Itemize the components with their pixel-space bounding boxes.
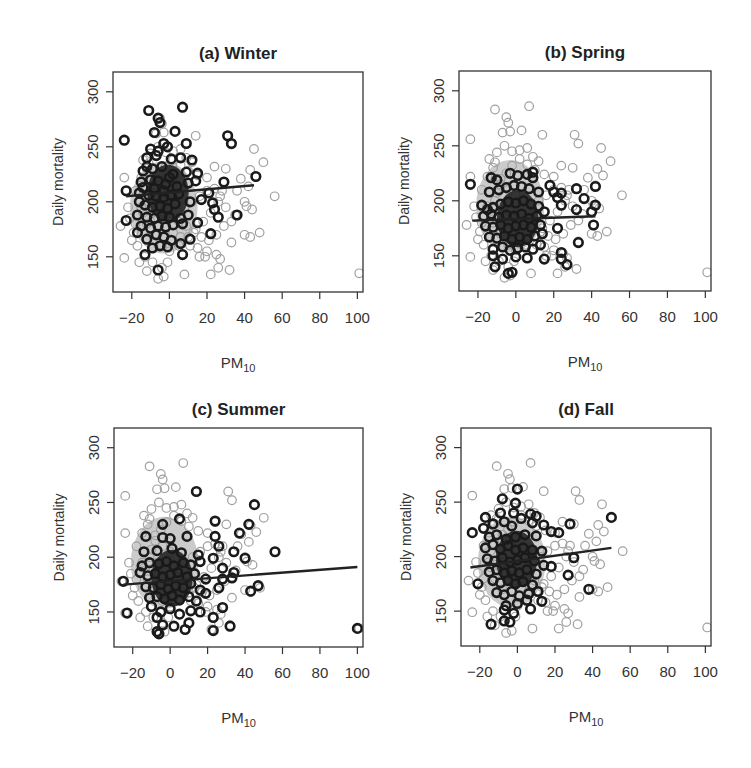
y-tick-label: 300 bbox=[430, 78, 447, 103]
x-tick-label: 60 bbox=[274, 664, 291, 681]
x-tick-label: −20 bbox=[467, 663, 492, 680]
y-tick-label: 150 bbox=[432, 599, 449, 624]
panel-title: (b) Spring bbox=[545, 43, 625, 62]
y-axis: 150200250300 bbox=[84, 79, 113, 269]
y-tick-label: 150 bbox=[85, 599, 102, 624]
y-axis: 150200250300 bbox=[430, 78, 459, 268]
x-tick-label: −20 bbox=[465, 308, 490, 325]
panel-title: (d) Fall bbox=[558, 400, 614, 419]
y-tick-label: 200 bbox=[85, 545, 102, 570]
figure-canvas: (a) Winter−20020406080100150200250300Dai… bbox=[0, 0, 751, 768]
x-tick-label: −20 bbox=[119, 309, 144, 326]
scatter-points bbox=[464, 459, 711, 638]
x-axis: −20020406080100 bbox=[467, 646, 718, 680]
y-tick-label: 250 bbox=[432, 490, 449, 515]
x-tick-label: 100 bbox=[345, 309, 370, 326]
x-axis-label: PM10 bbox=[568, 353, 603, 373]
season-core bbox=[151, 550, 192, 607]
x-tick-label: 80 bbox=[311, 309, 328, 326]
y-axis: 150200250300 bbox=[85, 435, 114, 624]
x-tick-label: 40 bbox=[237, 664, 254, 681]
panel-fall: (d) Fall−20020406080100150200250300Daily… bbox=[398, 400, 718, 728]
x-axis-label: PM10 bbox=[569, 708, 604, 728]
x-tick-label: 100 bbox=[345, 664, 370, 681]
y-tick-label: 150 bbox=[430, 243, 447, 268]
y-tick-label: 200 bbox=[432, 544, 449, 569]
x-tick-label: 40 bbox=[584, 663, 601, 680]
x-axis-label: PM10 bbox=[221, 709, 256, 729]
x-tick-label: 0 bbox=[512, 308, 520, 325]
x-tick-label: 0 bbox=[166, 664, 174, 681]
y-axis-label: Daily mortality bbox=[398, 493, 414, 581]
panel-summer: (c) Summer−20020406080100150200250300Dai… bbox=[51, 400, 370, 729]
y-tick-label: 250 bbox=[84, 134, 101, 159]
y-axis-label: Daily mortality bbox=[51, 494, 67, 582]
x-tick-label: 20 bbox=[545, 308, 562, 325]
x-axis-label: PM10 bbox=[221, 354, 256, 374]
y-tick-label: 200 bbox=[430, 188, 447, 213]
y-tick-label: 300 bbox=[85, 435, 102, 460]
x-tick-label: 60 bbox=[274, 309, 291, 326]
x-tick-label: 0 bbox=[513, 663, 521, 680]
x-tick-label: 20 bbox=[547, 663, 564, 680]
y-axis-label: Daily mortality bbox=[396, 137, 412, 225]
y-tick-label: 250 bbox=[430, 133, 447, 158]
panel-title: (a) Winter bbox=[199, 44, 278, 63]
panel-spring: (b) Spring−20020406080100150200250300Dai… bbox=[396, 43, 718, 373]
x-tick-label: 0 bbox=[165, 309, 173, 326]
panel-title: (c) Summer bbox=[192, 400, 286, 419]
x-axis: −20020406080100 bbox=[120, 647, 370, 681]
y-tick-label: 300 bbox=[432, 435, 449, 460]
x-axis: −20020406080100 bbox=[465, 291, 718, 325]
scatter-points bbox=[117, 459, 363, 638]
y-axis: 150200250300 bbox=[432, 435, 461, 624]
x-axis: −20020406080100 bbox=[119, 292, 370, 326]
y-axis-label: Daily mortality bbox=[50, 138, 66, 226]
scatter-points bbox=[462, 102, 711, 282]
x-tick-label: 100 bbox=[693, 308, 718, 325]
y-tick-label: 300 bbox=[84, 79, 101, 104]
y-tick-label: 200 bbox=[84, 189, 101, 214]
x-tick-label: 40 bbox=[583, 308, 600, 325]
x-tick-label: 20 bbox=[199, 664, 216, 681]
x-tick-label: 60 bbox=[621, 308, 638, 325]
x-tick-label: 100 bbox=[693, 663, 718, 680]
x-tick-label: 60 bbox=[622, 663, 639, 680]
y-tick-label: 250 bbox=[85, 490, 102, 515]
x-tick-label: −20 bbox=[120, 664, 145, 681]
panel-winter: (a) Winter−20020406080100150200250300Dai… bbox=[50, 44, 370, 374]
x-tick-label: 80 bbox=[659, 663, 676, 680]
x-tick-label: 80 bbox=[659, 308, 676, 325]
x-tick-label: 80 bbox=[312, 664, 329, 681]
x-tick-label: 40 bbox=[236, 309, 253, 326]
x-tick-label: 20 bbox=[199, 309, 216, 326]
y-tick-label: 150 bbox=[84, 244, 101, 269]
